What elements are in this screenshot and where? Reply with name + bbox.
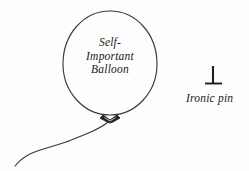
- balloon-string: [15, 122, 108, 166]
- pin-label: Ironic pin: [186, 92, 233, 106]
- balloon-label-line-2: Important: [62, 50, 158, 64]
- balloon-knot-icon: [100, 115, 120, 123]
- balloon-label: Self- Important Balloon: [62, 36, 158, 77]
- balloon-label-line-1: Self-: [62, 36, 158, 50]
- cartoon-drawing: [0, 0, 249, 171]
- cartoon-canvas: Self- Important Balloon Ironic pin: [0, 0, 249, 171]
- balloon-label-line-3: Balloon: [62, 63, 158, 77]
